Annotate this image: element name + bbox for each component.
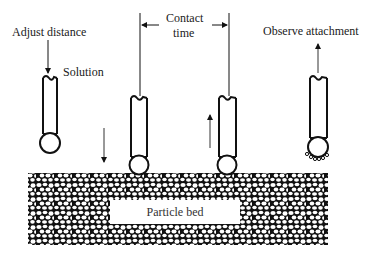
label-particle-bed: Particle bed [110,200,240,224]
label-adjust-distance: Adjust distance [12,26,86,39]
probe-step-1 [40,76,60,153]
probe-step-3 [218,96,237,175]
label-contact: Contact [166,12,203,25]
label-time: time [173,27,194,40]
probe-step-4 [308,76,328,157]
label-observe-attachment: Observe attachment [263,25,359,38]
label-solution: Solution [63,66,104,79]
probe-step-2 [130,96,149,175]
